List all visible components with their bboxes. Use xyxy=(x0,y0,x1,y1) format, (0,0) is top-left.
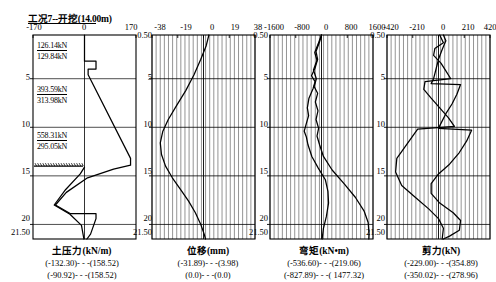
series-shear-case-1 xyxy=(396,35,455,239)
series-moment-case-1 xyxy=(304,35,328,239)
plot-bending-moment xyxy=(267,35,373,239)
series-active-pressure xyxy=(55,35,130,239)
plot-shear-force xyxy=(384,35,490,239)
series-passive-pressure xyxy=(54,167,84,239)
excavation-ground-line xyxy=(34,163,83,166)
plot-earth-pressure xyxy=(30,35,136,239)
plot-displacement xyxy=(149,35,255,239)
